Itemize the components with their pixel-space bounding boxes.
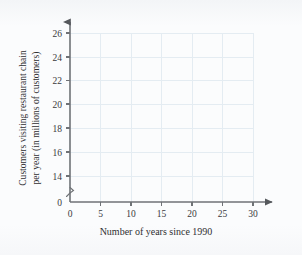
y-tick-label-zero: 0 — [57, 198, 62, 208]
y-tick-label: 20 — [53, 100, 63, 110]
x-tick-label: 30 — [248, 209, 258, 219]
y-tick-label: 24 — [53, 53, 63, 63]
chart-container: 26 24 22 20 18 16 14 0 0 5 10 15 20 25 3… — [0, 0, 302, 255]
y-axis-title-line1: Customers visiting restaurant chain — [17, 50, 28, 186]
y-tick-label: 22 — [53, 76, 63, 86]
y-tick-labels: 26 24 22 20 18 16 14 0 — [53, 29, 63, 209]
x-tick-label: 15 — [157, 209, 167, 219]
chart-svg: 26 24 22 20 18 16 14 0 0 5 10 15 20 25 3… — [0, 0, 302, 255]
y-axis-title: Customers visiting restaurant chain per … — [17, 50, 42, 186]
y-axis-title-line2: per year (in millions of customers) — [30, 52, 42, 185]
x-tick-label: 10 — [126, 209, 136, 219]
x-tick-label: 20 — [187, 209, 197, 219]
x-tick-label: 25 — [218, 209, 228, 219]
chart-page: 26 24 22 20 18 16 14 0 0 5 10 15 20 25 3… — [0, 0, 302, 255]
x-axis-title: Number of years since 1990 — [100, 226, 213, 237]
x-tick-label: 0 — [68, 209, 73, 219]
x-tick-label: 5 — [98, 209, 103, 219]
y-tick-label: 18 — [53, 124, 63, 134]
y-tick-label: 16 — [53, 148, 63, 158]
x-tick-labels: 0 5 10 15 20 25 30 — [68, 209, 258, 219]
gridlines-vertical — [101, 33, 254, 202]
y-tick-label: 26 — [53, 29, 63, 39]
y-tick-label: 14 — [53, 172, 63, 182]
